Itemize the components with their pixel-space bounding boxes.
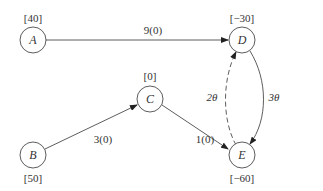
node-b-supply: [50]: [24, 172, 42, 184]
node-b: B [50]: [20, 142, 46, 184]
edge-label-a-d: 9(0): [144, 24, 163, 37]
edge-label-e-d: 2θ: [207, 91, 219, 103]
flow-network-diagram: 9(0) 3(0) 1(0) 3θ 2θ A [40] B [50] C [0]…: [0, 0, 323, 191]
node-e: E [−60]: [229, 142, 255, 184]
edge-label-b-c: 3(0): [94, 133, 113, 146]
node-a-label: A: [28, 33, 37, 47]
edge-label-d-e: 3θ: [268, 91, 281, 103]
node-c-supply: [0]: [144, 70, 157, 82]
edge-d-e: [250, 51, 264, 144]
edge-e-d-dashed: [226, 52, 237, 145]
node-e-label: E: [237, 148, 246, 162]
node-a: A [40]: [20, 12, 46, 53]
node-e-supply: [−60]: [230, 172, 255, 184]
node-c-label: C: [146, 92, 155, 106]
node-d-supply: [−30]: [230, 12, 255, 24]
node-d-label: D: [237, 33, 247, 47]
edge-b-c: [45, 105, 137, 149]
node-a-supply: [40]: [24, 12, 42, 24]
node-b-label: B: [29, 148, 37, 162]
edge-label-c-e: 1(0): [196, 133, 215, 146]
node-d: D [−30]: [229, 12, 255, 53]
node-c: C [0]: [137, 70, 163, 112]
